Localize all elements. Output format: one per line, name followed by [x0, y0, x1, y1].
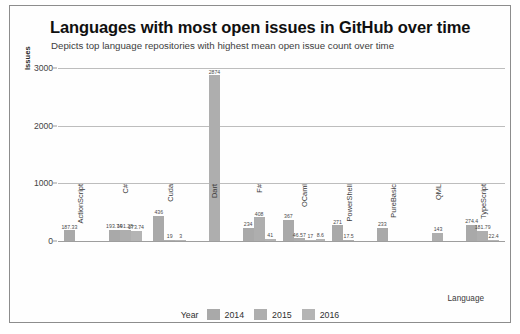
y-tick-mark — [53, 183, 57, 184]
chart-subtitle: Depicts top language repositories with h… — [51, 40, 394, 51]
chart-screenshot: Languages with most open issues in GitHu… — [0, 0, 520, 334]
x-axis-category: ActionScript — [58, 182, 103, 244]
x-axis-category-label: TypeScript — [478, 184, 487, 219]
legend-label: 2014 — [225, 310, 245, 320]
x-axis-category: C# — [103, 182, 148, 244]
x-axis-category: Dart — [192, 182, 237, 244]
x-axis-category: PureBasic — [371, 182, 416, 244]
legend-items: 201420152016 — [207, 309, 340, 320]
x-axis-label: Language — [448, 294, 484, 303]
x-axis-category: PowerShell — [326, 182, 371, 244]
x-axis-category-label: PowerShell — [344, 184, 353, 221]
x-axis-category-label: OCaml — [299, 184, 308, 207]
x-axis-categories: ActionScriptC#CudaDartF#OCamlPowerShellP… — [58, 182, 505, 244]
legend: Year 201420152016 — [10, 309, 510, 320]
x-axis-category-label: F# — [255, 184, 264, 193]
y-tick-label: 2000 — [34, 121, 53, 131]
x-axis-category-label: QML — [433, 184, 442, 200]
x-axis-category: QML — [416, 182, 461, 244]
y-tick-mark — [53, 68, 57, 69]
x-axis-category: Cuda — [147, 182, 192, 244]
bar-value-label: 2874 — [209, 70, 221, 75]
legend-item[interactable]: 2014 — [207, 309, 245, 320]
x-axis-category: F# — [237, 182, 282, 244]
x-axis-category-label: C# — [121, 184, 130, 193]
x-axis-category-label: Dart — [210, 184, 219, 198]
legend-swatch — [302, 309, 315, 320]
y-tick-mark — [53, 241, 57, 242]
x-axis-category-label: PureBasic — [389, 184, 398, 218]
x-axis-category-label: Cuda — [165, 184, 174, 202]
legend-label: 2015 — [272, 310, 292, 320]
x-axis-category-label: ActionScript — [76, 184, 85, 223]
legend-item[interactable]: 2016 — [302, 309, 340, 320]
legend-title: Year — [181, 310, 199, 320]
y-tick-label: 0 — [48, 236, 53, 246]
legend-item[interactable]: 2015 — [254, 309, 292, 320]
y-axis-label: Issues — [23, 46, 32, 70]
y-tick-mark — [53, 125, 57, 126]
legend-swatch — [207, 309, 220, 320]
x-axis-category: OCaml — [282, 182, 327, 244]
chart-frame: Languages with most open issues in GitHu… — [9, 5, 511, 323]
y-tick-label: 3000 — [34, 63, 53, 73]
x-axis-category: TypeScript — [460, 182, 505, 244]
chart-title: Languages with most open issues in GitHu… — [50, 18, 470, 37]
y-tick-label: 1000 — [34, 178, 53, 188]
legend-swatch — [254, 309, 267, 320]
legend-label: 2016 — [320, 310, 340, 320]
